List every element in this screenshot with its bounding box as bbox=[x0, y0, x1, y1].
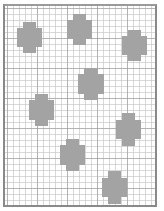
pattern-blob-g bbox=[60, 139, 85, 171]
pattern-blob-d bbox=[78, 68, 104, 100]
pattern-blob-a bbox=[17, 22, 42, 53]
pattern-blob-e bbox=[29, 94, 54, 126]
pattern-blob-h bbox=[102, 171, 127, 204]
pattern-blob-c bbox=[122, 30, 147, 61]
pattern-blob-b bbox=[67, 14, 92, 45]
pattern-blob-f bbox=[116, 113, 141, 146]
